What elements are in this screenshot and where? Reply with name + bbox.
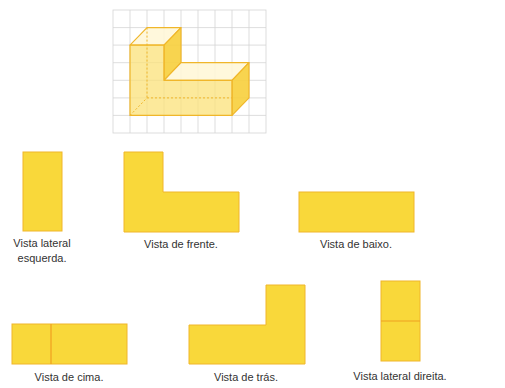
view-left-label-line2: esquerda. [2, 251, 82, 266]
view-back-label: Vista de trás. [196, 370, 296, 385]
view-top-label: Vista de cima. [19, 370, 119, 385]
isometric-figure [0, 0, 505, 388]
view-top-shape [12, 324, 127, 364]
view-left-label: Vista lateral esquerda. [2, 236, 82, 266]
view-front-shape [124, 152, 239, 232]
view-bottom-label: Vista de baixo. [306, 237, 406, 252]
view-left-shape [23, 152, 62, 231]
view-right-shape [381, 281, 420, 361]
view-right-label: Vista lateral direita. [345, 369, 455, 384]
view-front-label: Vista de frente. [131, 237, 231, 252]
view-back-shape [189, 285, 305, 364]
l-shaped-solid [130, 28, 249, 116]
view-bottom-shape [299, 192, 414, 232]
view-left-label-line1: Vista lateral [2, 236, 82, 251]
